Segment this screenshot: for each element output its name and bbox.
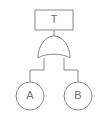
fault-tree-canvas: T A B <box>0 0 109 115</box>
basic-event-b-label: B <box>74 89 81 101</box>
basic-event-a-label: A <box>26 89 34 101</box>
connector-gate-to-basic-event-b <box>64 58 78 82</box>
connector-gate-to-basic-event-a <box>30 58 44 82</box>
top-event-label: T <box>51 13 58 25</box>
fault-tree-diagram: T A B <box>0 0 109 115</box>
or-gate-shape[interactable] <box>38 36 70 58</box>
